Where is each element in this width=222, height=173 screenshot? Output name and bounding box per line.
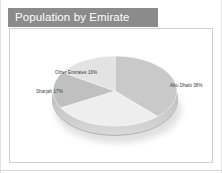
pie-chart: [50, 51, 182, 146]
pie-label-other-emirates: Other Emirates 16%: [55, 70, 97, 75]
page-title: Population by Emirate: [15, 12, 130, 24]
pie-slice-group: [53, 56, 177, 126]
pie-label-sharjah: Sharjah 17%: [36, 89, 63, 94]
slide-title-bar: Population by Emirate: [8, 8, 158, 27]
page-border-bottom: [0, 170, 222, 171]
pie-top-surface: [52, 55, 178, 127]
page-border-right: [221, 0, 222, 173]
pie-slices-svg: [52, 55, 178, 127]
slide-canvas: Population by Emirate Abu Dhabi 38% Duba…: [0, 0, 222, 173]
chart-frame: Abu Dhabi 38% Dubai 29% Sharjah 17% Othe…: [9, 28, 213, 163]
pie-label-abu-dhabi: Abu Dhabi 38%: [170, 83, 203, 88]
page-border-left: [0, 0, 1, 173]
